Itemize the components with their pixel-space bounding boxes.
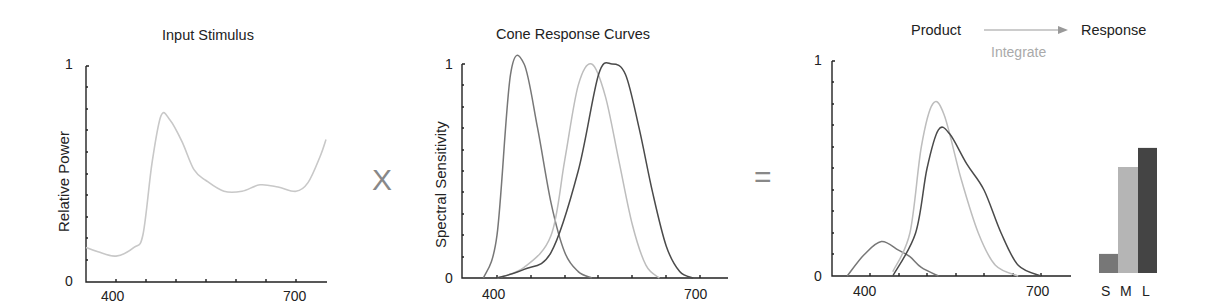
integrate-label: Integrate bbox=[991, 44, 1046, 60]
s-response-bar bbox=[1099, 254, 1118, 273]
stimulus-y-bottom: 0 bbox=[65, 273, 73, 289]
cones-y-bottom: 0 bbox=[445, 270, 453, 286]
multiply-operator: X bbox=[372, 163, 392, 197]
stimulus-y-top: 1 bbox=[65, 56, 73, 72]
stimulus-axes bbox=[86, 66, 327, 282]
m-product-curve bbox=[893, 102, 1018, 276]
cones-x-tick-400: 400 bbox=[482, 286, 505, 302]
s-cone-curve bbox=[484, 55, 592, 278]
m-response-bar bbox=[1118, 167, 1138, 273]
product-title: Product bbox=[911, 22, 961, 38]
stimulus-x-tick-400: 400 bbox=[101, 288, 124, 304]
l-cone-curve bbox=[497, 63, 693, 278]
product-y-bottom: 0 bbox=[814, 268, 822, 284]
stimulus-x-tick-700: 700 bbox=[283, 288, 306, 304]
response-title: Response bbox=[1081, 22, 1146, 38]
cones-y-top: 1 bbox=[445, 56, 453, 72]
stimulus-curve bbox=[86, 113, 326, 257]
stimulus-ylabel: Relative Power bbox=[55, 131, 72, 232]
cones-title: Cone Response Curves bbox=[496, 26, 650, 42]
l-response-bar bbox=[1138, 148, 1157, 273]
equals-operator: = bbox=[754, 160, 772, 194]
product-x-tick-400: 400 bbox=[853, 283, 876, 299]
cones-ylabel: Spectral Sensitivity bbox=[432, 121, 449, 248]
integrate-arrow-icon bbox=[984, 26, 1068, 34]
cones-x-tick-700: 700 bbox=[684, 286, 707, 302]
product-axes bbox=[832, 61, 1071, 276]
product-y-top: 1 bbox=[814, 52, 822, 68]
product-x-tick-700: 700 bbox=[1026, 283, 1049, 299]
bar-label-s: S bbox=[1101, 283, 1110, 299]
stimulus-title: Input Stimulus bbox=[162, 27, 254, 43]
bar-label-m: M bbox=[1120, 283, 1132, 299]
bar-label-l: L bbox=[1142, 283, 1150, 299]
